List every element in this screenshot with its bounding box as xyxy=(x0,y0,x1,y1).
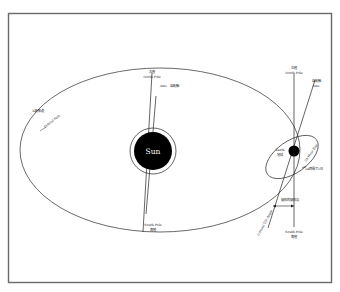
sun-axis-jp: 自転軸 xyxy=(170,83,179,88)
sun-north-jp: 北極 xyxy=(149,69,156,74)
earth-disk xyxy=(289,146,300,157)
earth-label-en: Earth xyxy=(275,148,284,152)
orbit-label-en: Orbital Path xyxy=(43,114,61,129)
earth-south-en: South Pole xyxy=(285,230,302,234)
earth-axis-en: Axis xyxy=(312,84,320,88)
earth-north-jp: 北極 xyxy=(291,65,298,70)
tilt-arrow-head-right xyxy=(291,205,294,208)
sun-label: Sun xyxy=(146,147,161,156)
earth-north-en: North Pole xyxy=(285,71,303,75)
orbit-label-en-group: Orbital Path xyxy=(43,114,61,129)
sun-north-en: North Pole xyxy=(143,75,161,79)
sun-south-jp: 南極 xyxy=(150,227,157,232)
orbit-label-jp: 公転軌道 xyxy=(32,108,45,113)
orbit-label: 公転軌道 xyxy=(32,108,45,113)
sun-axis-en: Axis xyxy=(159,84,167,88)
earth-axis-jp: 自転軸 xyxy=(312,78,321,83)
earth-tilt-jp: 傾斜的傾斜角 xyxy=(281,197,299,202)
earth-tilt-en: Critical Tilt Angle xyxy=(256,209,273,236)
solar-orbit-diagram: 公転軌道 Orbital Path Sun 北極 North Pole Axis… xyxy=(0,0,340,292)
earth-tilt-en-group: Critical Tilt Angle xyxy=(256,209,273,236)
earth-label-jp: 地球 xyxy=(277,152,284,157)
sun-south-en: South Pole xyxy=(144,223,161,227)
earth-day-jp: 24時間で1日 xyxy=(305,166,323,171)
earth-south-jp: 南極 xyxy=(291,234,298,239)
earth-rotation-ellipse xyxy=(258,127,326,188)
